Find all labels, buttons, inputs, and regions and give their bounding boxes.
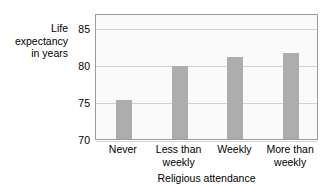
bar-chart-figure: Life expectancy in years 70758085 NeverL… [0,0,331,194]
bar [227,57,243,139]
y-axis-tick-label: 75 [68,98,90,109]
plot-area [95,14,318,140]
bar [283,53,299,139]
x-axis-tick-label-line: Never [95,143,151,156]
bar [116,100,132,139]
x-axis-tick-label-line: Less than [151,143,207,156]
x-axis-tick-label: Weekly [207,143,263,156]
y-axis-title-line-1: Life [8,22,68,35]
y-axis-tick-label: 70 [68,135,90,146]
gridline [96,29,317,30]
x-axis-tick-label: More thanweekly [262,143,318,168]
y-axis-title-line-3: in years [8,47,68,60]
x-axis-tick-label: Less thanweekly [151,143,207,168]
y-axis-title: Life expectancy in years [8,22,68,60]
x-axis-tick-label: Never [95,143,151,156]
x-axis-tick-label-line: weekly [262,156,318,169]
x-axis-tick-label-line: Weekly [207,143,263,156]
y-axis-tick-label: 80 [68,61,90,72]
y-axis-tick-label: 85 [68,24,90,35]
gridline [96,141,317,142]
y-axis-title-line-2: expectancy [8,35,68,48]
x-axis-tick-label-line: weekly [151,156,207,169]
x-axis-title: Religious attendance [95,172,318,184]
x-axis-tick-label-line: More than [262,143,318,156]
bar [172,66,188,139]
